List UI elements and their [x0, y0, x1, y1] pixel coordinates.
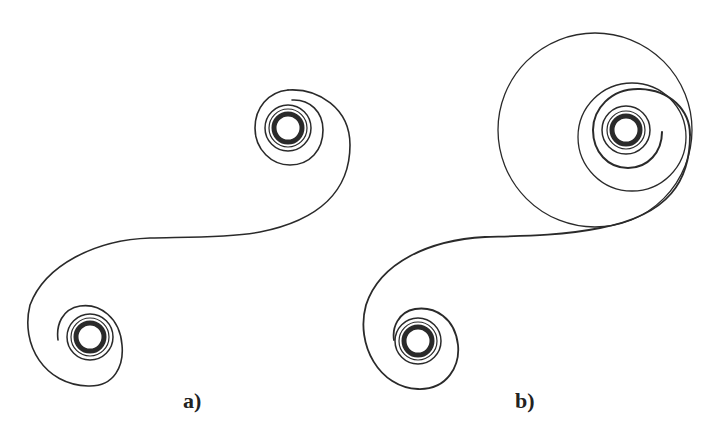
panel-b: [363, 33, 692, 389]
panel-b-label: b): [515, 388, 535, 414]
panel-b-upper-core: [612, 116, 640, 144]
panel-b-large-loop: [498, 33, 692, 227]
panel-a-upper-core: [274, 114, 302, 142]
panel-a-lower-core: [76, 323, 104, 351]
panel-a: [28, 90, 350, 386]
panel-a-label: a): [183, 388, 201, 414]
panel-b-upper-ring-1: [602, 106, 650, 154]
panel-b-lower-core: [404, 327, 432, 355]
panel-b-s-curve: [363, 135, 690, 389]
figure: a) b): [0, 0, 715, 431]
diagram-canvas: [0, 0, 715, 431]
